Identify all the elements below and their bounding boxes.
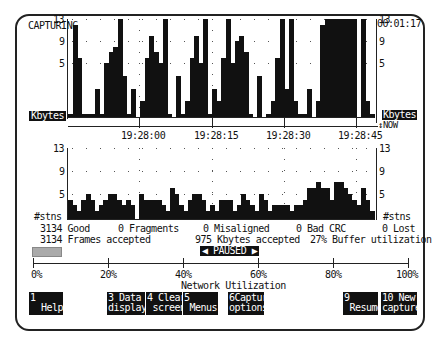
grid-dot	[356, 159, 357, 160]
bottom-ytick-9-right: 9	[379, 167, 385, 177]
baseline	[68, 219, 374, 220]
bar	[307, 89, 312, 119]
utilization-tick-label: 40%	[175, 270, 192, 280]
grid-dot	[72, 194, 73, 195]
grid-dot	[114, 171, 115, 172]
bar	[244, 52, 249, 118]
grid-dot	[268, 171, 269, 172]
help-button[interactable]: 1 Help	[29, 292, 63, 315]
fragments-count: 0 Fragments	[118, 224, 179, 234]
bottom-ytick-5-right: 5	[379, 190, 385, 200]
misaligned-count: 0 Misaligned	[203, 224, 269, 234]
grid-dot	[212, 74, 213, 75]
bar	[352, 19, 357, 118]
grid-dot	[254, 19, 255, 20]
bar	[176, 76, 181, 118]
grid-dot	[226, 194, 227, 195]
kbytes-label-right: Kbytes	[382, 110, 417, 120]
grid-dot	[212, 148, 213, 149]
now-marker: ↕NOW	[378, 120, 398, 130]
bottom-ytick-13-right: 13	[379, 144, 390, 154]
grid-dot	[240, 19, 241, 20]
grid-dot	[156, 148, 157, 149]
grid-dot	[254, 63, 255, 64]
utilization-tick-label: 100%	[396, 270, 418, 280]
grid-dot	[268, 63, 269, 64]
frames-accepted: 3134 Frames accepted	[40, 235, 150, 245]
grid-dot	[128, 194, 129, 195]
grid-dot	[139, 41, 140, 42]
grid-dot	[296, 63, 297, 64]
grid-dot	[240, 148, 241, 149]
grid-dot	[226, 148, 227, 149]
bar	[163, 19, 168, 118]
stations-chart	[68, 148, 374, 220]
capture-options-button[interactable]: 6Capturoptions	[228, 292, 264, 315]
stns-label: #stns	[34, 212, 62, 222]
bar	[130, 205, 135, 220]
grid-dot	[254, 171, 255, 172]
top-ytick-13: 13	[53, 15, 64, 25]
data-display-button[interactable]: 3 Datadisplay	[107, 292, 145, 315]
bad-crc-count: 0 Bad CRC	[296, 224, 346, 234]
grid-dot	[100, 19, 101, 20]
bar	[131, 89, 136, 119]
grid-dot	[156, 194, 157, 195]
grid-dot	[212, 85, 213, 86]
grid-dot	[139, 159, 140, 160]
grid-dot	[86, 63, 87, 64]
grid-dot	[198, 19, 199, 20]
grid-dot	[170, 148, 171, 149]
grid-dot	[212, 30, 213, 31]
resume-button[interactable]: 9 Resume	[343, 292, 378, 315]
grid-dot	[100, 194, 101, 195]
grid-dot	[128, 171, 129, 172]
grid-dot	[170, 63, 171, 64]
grid-dot	[142, 171, 143, 172]
grid-dot	[366, 41, 367, 42]
grid-dot	[212, 52, 213, 53]
grid-dot	[142, 148, 143, 149]
grid-dot	[100, 63, 101, 64]
grid-dot	[356, 148, 357, 149]
grid-dot	[170, 41, 171, 42]
grid-dot	[366, 194, 367, 195]
grid-dot	[139, 63, 140, 64]
grid-dot	[366, 19, 367, 20]
grid-dot	[139, 170, 140, 171]
grid-dot	[284, 181, 285, 182]
grid-dot	[324, 171, 325, 172]
new-capture-button[interactable]: 10 Newcapture	[381, 292, 417, 315]
top-ytick-5: 5	[59, 59, 65, 69]
top-right-axis	[376, 19, 377, 123]
grid-dot	[356, 192, 357, 193]
paused-indicator: ◀ PAUSED ▶	[200, 246, 259, 256]
utilization-tick-label: 20%	[100, 270, 117, 280]
utilization-tick	[108, 258, 109, 268]
grid-dot	[296, 171, 297, 172]
grid-dot	[254, 194, 255, 195]
grid-dot	[296, 19, 297, 20]
kbytes-accepted: 975 Kbytes accepted	[195, 235, 300, 245]
bottom-ytick-13: 13	[53, 144, 64, 154]
bottom-ytick-5: 5	[59, 190, 65, 200]
clear-screen-button[interactable]: 4 Clear screen	[146, 292, 182, 315]
grid-dot	[352, 171, 353, 172]
lost-count: 0 Lost	[382, 224, 415, 234]
grid-dot	[212, 170, 213, 171]
grid-dot	[139, 74, 140, 75]
grid-dot	[356, 181, 357, 182]
menus-button[interactable]: 5 Menus	[183, 292, 218, 315]
grid-dot	[284, 192, 285, 193]
utilization-tick	[258, 258, 259, 268]
time-label: 19:28:30	[266, 131, 310, 141]
time-tick	[139, 118, 140, 128]
grid-dot	[282, 171, 283, 172]
time-label: 19:28:15	[194, 131, 238, 141]
baseline	[68, 117, 374, 118]
grid-dot	[100, 41, 101, 42]
grid-dot	[212, 194, 213, 195]
grid-dot	[184, 19, 185, 20]
grid-dot	[114, 148, 115, 149]
grid-dot	[198, 148, 199, 149]
